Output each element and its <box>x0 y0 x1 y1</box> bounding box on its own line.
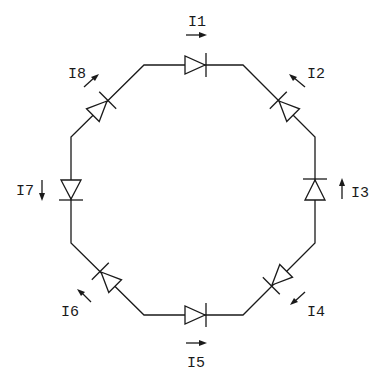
current-arrow-i7-icon <box>39 180 45 201</box>
current-arrow-i8-icon <box>84 74 99 87</box>
diode-triangle-icon <box>185 56 205 74</box>
current-label-i8: I8 <box>68 66 86 83</box>
diode-triangle-icon <box>266 264 293 291</box>
diode-ring-diagram: I1 I2 I3 I4 I5 I6 I7 I8 <box>0 0 387 379</box>
current-label-i3: I3 <box>351 185 369 202</box>
current-label-i2: I2 <box>307 66 325 83</box>
diode-triangle-icon <box>185 306 205 324</box>
diode-triangle-icon <box>61 180 81 199</box>
current-label-i7: I7 <box>16 183 34 200</box>
diode-right <box>303 179 327 200</box>
current-label-i4: I4 <box>307 304 325 321</box>
current-label-i1: I1 <box>188 14 206 31</box>
current-arrow-i2-icon <box>289 74 305 87</box>
current-arrow-i5-icon <box>186 340 207 346</box>
diode-bottom <box>185 303 206 327</box>
current-arrow-i1-icon <box>186 32 207 38</box>
current-arrow-i3-icon <box>339 178 345 199</box>
current-label-i5: I5 <box>187 355 205 372</box>
diode-triangle-icon <box>305 180 325 200</box>
current-label-i6: I6 <box>61 304 79 321</box>
diode-left <box>59 180 83 200</box>
diode-bottom-right <box>263 262 295 294</box>
current-arrow-i6-icon <box>77 289 91 302</box>
current-arrow-i4-icon <box>290 292 305 305</box>
diode-top <box>185 53 206 77</box>
